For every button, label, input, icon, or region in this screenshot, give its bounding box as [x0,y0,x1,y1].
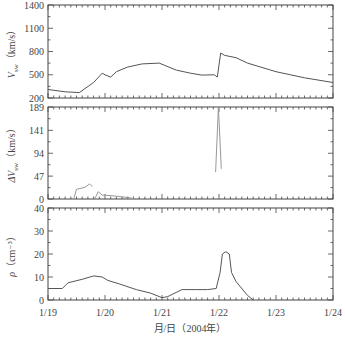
x-tick-label: 1/24 [324,307,342,318]
series-line-spike [216,107,222,172]
series-line-rho [48,252,253,300]
series-line-segment-2 [95,192,137,199]
x-tick-label: 1/21 [153,307,171,318]
delta-vsw-panel: 04794141189ΔVsw（km/s） [6,102,333,205]
x-tick-label: 1/22 [210,307,228,318]
plot-frame [48,208,333,300]
y-tick-label: 1400 [24,0,44,11]
y-tick-label: 10 [34,272,44,283]
y-tick-label: 40 [34,203,44,214]
x-tick-label: 1/23 [267,307,285,318]
y-tick-label: 141 [29,125,44,136]
y-tick-label: 0 [39,295,44,306]
y-tick-label: 500 [29,69,44,80]
y-tick-label: 189 [29,102,44,113]
series-line-V_sw [48,53,333,93]
x-axis-title: 月/日（2004年） [154,322,227,334]
y-tick-label: 800 [29,46,44,57]
y-tick-label: 47 [34,171,44,182]
density-panel: 010203040ρ（cm⁻³） [6,203,333,306]
y-axis-title: ρ（cm⁻³） [6,231,17,277]
y-tick-label: 30 [34,226,44,237]
y-tick-label: 20 [34,249,44,260]
y-tick-label: 94 [34,148,44,159]
vsw-panel: 20050080011001400Vsw（km/s） [6,0,333,104]
x-tick-label: 1/19 [39,307,57,318]
y-axis-title: Vsw（km/s） [6,25,20,78]
y-axis-title: ΔVsw（km/s） [6,123,20,183]
y-tick-label: 1100 [24,23,44,34]
x-tick-label: 1/20 [96,307,114,318]
figure: 20050080011001400Vsw（km/s）04794141189ΔVs… [0,0,345,340]
